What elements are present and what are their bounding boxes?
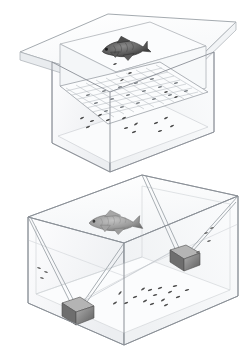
spawning-tank-illustration xyxy=(0,0,248,359)
figure-container xyxy=(0,0,248,359)
